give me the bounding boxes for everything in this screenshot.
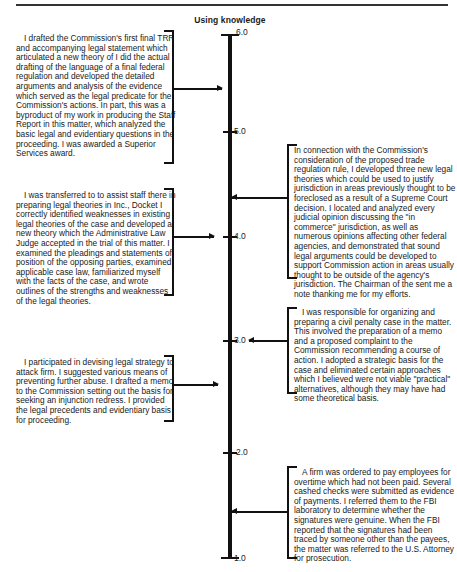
anchor-left-3-text: I participated in devising legal strateg… [16,358,176,425]
anchor-left-1: I drafted the Commission's first final T… [16,34,176,159]
anchor-right-2-bracket [287,307,297,394]
anchor-left-1-bracket [164,30,174,164]
tick-label-3: 3.0 [234,335,246,345]
anchor-right-3-arrow [232,511,287,513]
tick-label-6: 6.0 [236,27,248,37]
tick-label-5: 5.0 [234,126,246,136]
anchor-left-2-arrow [174,236,214,238]
anchor-right-2-text: I was responsible for organizing and pre… [294,308,456,404]
tick-label-2: 2.0 [236,447,248,457]
anchor-left-2-bracket [164,188,174,296]
anchor-right-1-arrow [232,197,287,199]
anchor-left-3-bracket [164,355,174,422]
anchor-right-3-text: A firm was ordered to pay employees for … [294,468,456,564]
tick-label-4: 4.0 [234,231,246,241]
scale-title: Using knowledge [180,15,280,25]
anchor-left-2: I was transferred to to assist staff the… [16,191,176,306]
anchor-right-1: In connection with the Commission's cons… [294,146,456,300]
anchor-right-2-arrow [249,340,287,342]
tick-label-1: 1.0 [234,553,246,563]
anchor-left-3-arrow [174,384,218,386]
scale-axis [228,34,232,559]
tick-2 [223,452,237,454]
anchor-left-3: I participated in devising legal strateg… [16,358,176,425]
top-rule [16,4,448,6]
anchor-right-1-bracket [287,144,297,279]
anchor-left-2-text: I was transferred to to assist staff the… [16,191,176,306]
anchor-right-2: I was responsible for organizing and pre… [294,308,456,404]
anchor-left-1-text: I drafted the Commission's first final T… [16,34,176,159]
anchor-right-3-bracket [287,466,297,559]
anchor-right-1-text: In connection with the Commission's cons… [294,146,456,300]
anchor-left-1-arrow [174,88,222,90]
anchor-right-3: A firm was ordered to pay employees for … [294,468,456,564]
